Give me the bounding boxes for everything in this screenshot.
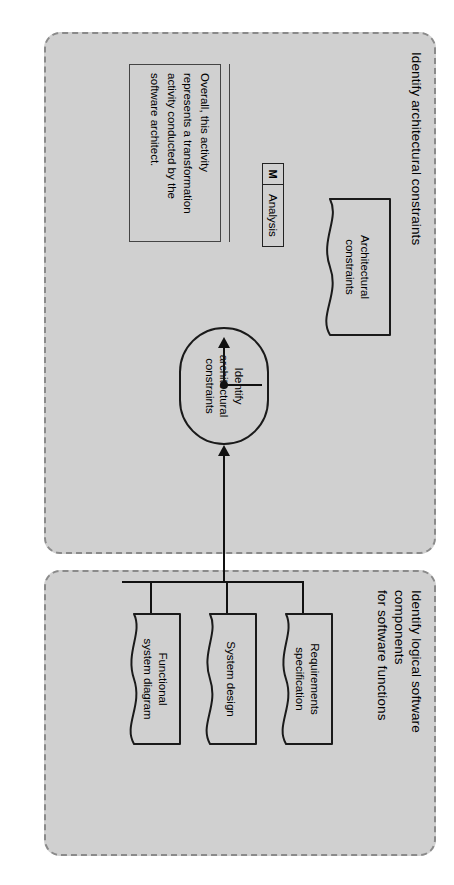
stereotype-tag-analysis[interactable]: M Analysis bbox=[262, 163, 284, 247]
connector-system-design-stub bbox=[226, 581, 228, 613]
artifact-label-requirements-specification: Requirements specification bbox=[272, 612, 334, 746]
artifact-system-design[interactable]: System design bbox=[196, 612, 258, 746]
stereotype-marker-letter: M bbox=[263, 164, 283, 185]
note-anchor-rule bbox=[229, 64, 230, 242]
artifact-architectural-constraints[interactable]: Architectural constraints bbox=[314, 197, 392, 337]
diagram-canvas-rotator: Identify architectural constraints Ident… bbox=[0, 0, 454, 885]
connector-inputs-to-activity bbox=[223, 456, 225, 582]
partition-title-identify-logical-software-components: Identify logical software components for… bbox=[373, 590, 424, 733]
artifact-label-functional-system-diagram: Functional system diagram bbox=[120, 612, 182, 746]
partition-title-identify-architectural-constraints: Identify architectural constraints bbox=[407, 52, 424, 245]
note-overall-activity: Overall, this activity represents a tran… bbox=[129, 64, 221, 242]
arrowhead-into-architectural-constraints bbox=[218, 337, 230, 348]
stereotype-tag-label: Analysis bbox=[263, 185, 283, 246]
connector-analysis-tag-to-junction bbox=[226, 384, 262, 386]
artifact-requirements-specification[interactable]: Requirements specification bbox=[272, 612, 334, 746]
connector-functional-system-diagram-stub bbox=[150, 581, 152, 613]
artifact-label-system-design: System design bbox=[196, 612, 258, 746]
connector-requirements-specification-stub bbox=[302, 581, 304, 613]
diagram-canvas: Identify architectural constraints Ident… bbox=[0, 0, 454, 885]
arrowhead-into-activity bbox=[218, 445, 230, 456]
artifact-label-architectural-constraints: Architectural constraints bbox=[314, 197, 392, 337]
artifact-functional-system-diagram[interactable]: Functional system diagram bbox=[120, 612, 182, 746]
